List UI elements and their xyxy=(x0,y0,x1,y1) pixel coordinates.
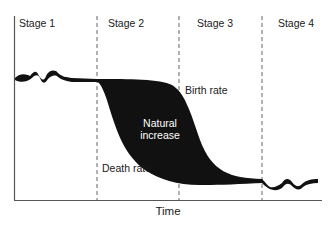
birth-rate-label: Birth rate xyxy=(185,84,228,96)
x-axis-label: Time xyxy=(155,205,180,217)
stage4-fluctuation xyxy=(262,179,318,190)
natural-increase-label-line2: increase xyxy=(140,129,180,141)
stage-4-label: Stage 4 xyxy=(278,17,314,29)
demographic-transition-diagram xyxy=(0,0,334,225)
stage-1-label: Stage 1 xyxy=(19,17,55,29)
death-rate-label: Death rate xyxy=(102,162,151,174)
stage-2-label: Stage 2 xyxy=(108,17,144,29)
stage1-fluctuation xyxy=(15,71,97,83)
stage-3-label: Stage 3 xyxy=(197,17,233,29)
natural-increase-label-line1: Natural xyxy=(143,117,177,129)
